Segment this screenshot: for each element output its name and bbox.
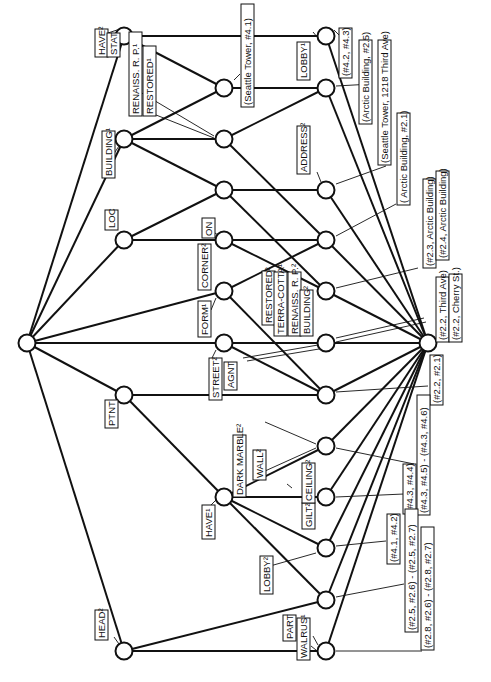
concept-lattice-diagram: HAVE² STAT RENAISS. R. P.¹ RESTORED¹ BUI… [0,0,491,682]
lattice-node-n_wall [318,438,335,455]
svg-text:ADDRESS²: ADDRESS² [298,123,309,172]
label-p4142: (#4.1, #4.2) [387,513,400,564]
svg-text:LOBBY¹: LOBBY¹ [298,43,309,78]
svg-text:GILT²: GILT² [303,503,314,527]
svg-text:CORNER²: CORNER² [199,244,210,288]
lattice-node-n_walrus [318,643,335,660]
label-wall2: WALL² [253,449,266,480]
svg-text:(#2.2, Cherry St.): (#2.2, Cherry St.) [450,267,461,340]
lattice-node-n_loc [116,232,133,249]
svg-text:RENAISS. R. P.¹: RENAISS. R. P.¹ [130,44,141,114]
lattice-edge [27,343,124,651]
label-seattle-41: (Seattle Tower, #4.1) [241,4,254,107]
lattice-edge [124,139,224,190]
lattice-node-n_on [216,232,233,249]
lattice-node-n_address [318,182,335,199]
svg-text:HAVE²: HAVE² [96,27,107,55]
label-on: ON [202,218,215,238]
svg-text:(#2.3, Arctic Building): (#2.3, Arctic Building) [424,176,435,266]
label-dark-marble2: DARK MARBLE² [233,424,246,497]
svg-text:ON: ON [203,222,214,236]
svg-text:RENAISS. R. P.²: RENAISS. R. P.² [289,264,300,334]
label-walrus1: WALRUS¹ [297,615,310,660]
svg-text:HAVE¹: HAVE¹ [203,509,214,537]
label-form1: FORM¹ [198,301,211,337]
lattice-edge [27,36,124,343]
label-seattle-1218: (Seattle Tower, 1218 Third Ave) [378,31,391,165]
svg-text:PTNT: PTNT [106,401,117,426]
svg-text:(#2.4, Arctic Building): (#2.4, Arctic Building) [437,168,448,258]
lattice-node-bottom [420,335,437,352]
svg-text:( Arctic Building, #2.1): ( Arctic Building, #2.1) [398,111,409,203]
svg-text:AGNT: AGNT [225,361,236,388]
svg-text:(Arctic Building, #2.5): (Arctic Building, #2.5) [360,32,371,122]
lattice-node-n_arctic25 [318,80,335,97]
label-p4345: (#4.3, #4.5) - (#4.3, #4.6) [417,395,430,515]
lattice-edge [27,291,224,343]
lattice-node-n_p2526 [318,592,335,609]
lattice-node-n_lobby2 [318,540,335,557]
svg-text:STREET²: STREET² [210,357,221,398]
svg-text:LOC: LOC [106,208,117,228]
label-part: PART [283,614,296,641]
label-p22-cherry: (#2.2, Cherry St.) [449,267,462,342]
svg-text:WALL²: WALL² [254,449,265,478]
label-restored2: RESTORED² [262,267,275,325]
label-restored1: RESTORED¹ [143,46,156,116]
svg-text:(#2.8, #2.6) - (#2.8, #2.7): (#2.8, #2.6) - (#2.8, #2.7) [422,542,433,648]
lattice-node-n_lobby1 [318,28,335,45]
lattice-node-n_corner [216,283,233,300]
svg-text:(#2.5, #2.6) - (#2.5, #2.7): (#2.5, #2.6) - (#2.5, #2.7) [406,524,417,630]
label-ceiling2: CEILING² [302,460,315,503]
lattice-edge [124,395,224,497]
svg-text:HEAD²: HEAD² [96,608,107,638]
svg-text:FORM¹: FORM¹ [199,304,210,335]
label-building2: BUILDING² [300,286,313,336]
label-arctic-21: ( Arctic Building, #2.1) [397,111,410,205]
svg-text:TERRA-COTTA¹: TERRA-COTTA¹ [275,264,286,334]
svg-text:LOBBY²: LOBBY² [261,557,272,592]
svg-text:(#2.2, #2.1): (#2.2, #2.1) [431,354,442,403]
label-agnt: AGNT [224,361,237,390]
lattice-node-n_mid190 [216,182,233,199]
label-renaiss1: RENAISS. R. P.¹ [129,32,142,116]
svg-text:(#4.1, #4.2): (#4.1, #4.2) [388,513,399,562]
svg-text:(#4.2, #4.3): (#4.2, #4.3) [340,27,351,76]
lattice-node-n_seattle41 [216,80,233,97]
svg-text:DARK MARBLE²: DARK MARBLE² [234,424,245,495]
label-building1: BUILDING¹ [102,128,115,178]
lattice-node-n_have1 [216,489,233,506]
svg-text:PART: PART [284,614,295,639]
label-have2: HAVE² [95,27,108,57]
label-terracotta1: TERRA-COTTA¹ [274,264,287,336]
svg-text:(#4.3, #4.4): (#4.3, #4.4) [404,463,415,512]
label-gilt2: GILT² [302,503,315,529]
label-have1: HAVE¹ [202,505,215,539]
svg-text:STAT: STAT [108,32,119,55]
lattice-node-n_form [216,335,233,352]
lattice-node-n_agnt [318,387,335,404]
lattice-edge [224,88,326,139]
lattice-edge [27,240,124,343]
label-street2: STREET² [209,357,222,400]
label-corner2: CORNER² [198,244,211,290]
lattice-node-top [19,335,36,352]
label-p2526: (#2.5, #2.6) - (#2.5, #2.7) [405,509,418,632]
svg-text:WALRUS¹: WALRUS¹ [298,615,309,658]
label-p23-arctic: (#2.3, Arctic Building) [423,176,436,268]
label-p22-third: (#2.2, Third Ave) [436,270,449,342]
label-loc: LOC [105,208,118,230]
lattice-node-n_head2 [116,643,133,660]
svg-text:(#4.3, #4.5) - (#4.3, #4.6): (#4.3, #4.5) - (#4.3, #4.6) [418,407,429,513]
label-p2826: (#2.8, #2.6) - (#2.8, #2.7) [421,527,434,650]
label-stat: STAT [107,32,120,57]
svg-text:(Seattle Tower, #4.1): (Seattle Tower, #4.1) [242,18,253,105]
label-ptnt: PTNT [105,400,118,428]
lattice-edge [326,240,428,343]
lattice-node-n_street [318,335,335,352]
svg-text:BUILDING¹: BUILDING¹ [103,128,114,176]
svg-text:BUILDING²: BUILDING² [301,286,312,334]
lattice-node-n_arctic21 [318,232,335,249]
label-lobby2: LOBBY² [260,556,273,594]
label-arctic-25: (Arctic Building, #2.5) [359,32,372,124]
